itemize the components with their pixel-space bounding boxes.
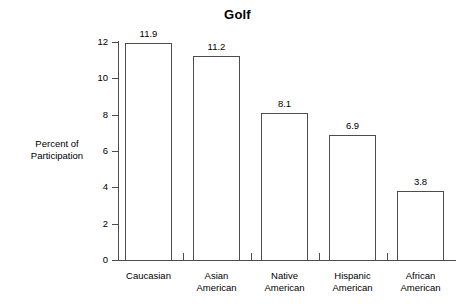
bar-caucasian[interactable]	[125, 43, 172, 261]
y-tick-10	[112, 78, 118, 79]
category-label-african-american-line-2: American	[385, 282, 456, 294]
category-label-native-american-line-1: Native	[249, 270, 320, 282]
x-tick-separator-3	[319, 253, 320, 260]
y-tick-label-0: 0	[88, 255, 108, 265]
y-tick-label-6: 6	[88, 146, 108, 156]
bar-value-asian-american: 11.2	[186, 41, 247, 52]
y-axis-line	[118, 41, 119, 261]
category-label-native-american-line-2: American	[249, 282, 320, 294]
y-tick-label-8: 8	[88, 110, 108, 120]
bar-hispanic-american[interactable]	[329, 135, 376, 261]
y-tick-0	[112, 260, 118, 261]
plot-area: 0 2 4 6 8 10 12 11.9 Caucasian 11.2 Asia…	[0, 0, 475, 308]
y-tick-4	[112, 187, 118, 188]
category-label-hispanic-american: Hispanic American	[317, 270, 388, 293]
y-tick-label-12: 12	[88, 37, 108, 47]
y-tick-6	[112, 151, 118, 152]
category-label-asian-american-line-2: American	[181, 282, 252, 294]
y-tick-12	[112, 42, 118, 43]
category-label-caucasian: Caucasian	[113, 270, 184, 282]
x-tick-separator-1	[183, 253, 184, 260]
category-label-asian-american: Asian American	[181, 270, 252, 293]
category-label-african-american: African American	[385, 270, 456, 293]
bar-native-american[interactable]	[261, 113, 308, 261]
y-tick-label-10: 10	[88, 73, 108, 83]
bar-asian-american[interactable]	[193, 56, 240, 261]
category-label-african-american-line-1: African	[385, 270, 456, 282]
x-tick-separator-2	[251, 253, 252, 260]
bar-value-african-american: 3.8	[390, 176, 451, 187]
category-label-hispanic-american-line-2: American	[317, 282, 388, 294]
bar-value-native-american: 8.1	[254, 98, 315, 109]
bar-value-hispanic-american: 6.9	[322, 120, 383, 131]
category-label-asian-american-line-1: Asian	[181, 270, 252, 282]
golf-participation-bar-chart: Golf Percent of Participation 0 2 4 6 8 …	[0, 0, 475, 308]
y-tick-label-4: 4	[88, 182, 108, 192]
bar-african-american[interactable]	[397, 191, 444, 261]
y-tick-label-2: 2	[88, 219, 108, 229]
category-label-native-american: Native American	[249, 270, 320, 293]
category-label-hispanic-american-line-1: Hispanic	[317, 270, 388, 282]
bar-value-caucasian: 11.9	[118, 28, 179, 39]
category-label-caucasian-line-1: Caucasian	[113, 270, 184, 282]
y-tick-2	[112, 224, 118, 225]
y-tick-8	[112, 115, 118, 116]
x-tick-separator-4	[387, 253, 388, 260]
